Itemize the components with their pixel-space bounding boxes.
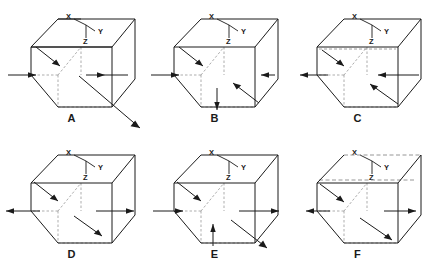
- axis-label-z: Z: [369, 173, 374, 182]
- axis-triad: X Y Z: [352, 148, 389, 182]
- axis-label-z: Z: [83, 173, 88, 182]
- left-face-arrow: [8, 72, 36, 77]
- box-wireframe: [31, 19, 135, 107]
- box-wireframe: [174, 19, 278, 107]
- axis-triad: X Y Z: [66, 148, 103, 182]
- left-face-arrow: [153, 208, 183, 213]
- top-face-arrow: [179, 47, 203, 66]
- left-face-arrow: [6, 208, 40, 213]
- axis-label-z: Z: [83, 37, 88, 46]
- axis-label-y: Y: [98, 27, 103, 36]
- right-face-arrow: [384, 208, 416, 213]
- box-panel-f: X Y Z: [286, 136, 429, 272]
- top-face-arrow: [177, 182, 201, 201]
- box-label-f: F: [286, 248, 429, 260]
- front-face-arrow: [360, 218, 392, 240]
- box-wireframe: [317, 19, 421, 107]
- top-face-arrow: [36, 47, 60, 66]
- box-wireframe: [31, 155, 135, 243]
- box-panel-e: X Y Z: [143, 136, 286, 272]
- right-face-arrow: [261, 72, 275, 77]
- box-wireframe: [174, 155, 278, 243]
- box-label-a: A: [0, 112, 143, 124]
- box-label-d: D: [0, 248, 143, 260]
- axis-label-z: Z: [226, 173, 231, 182]
- force-diagram-figure: X Y Z: [0, 0, 429, 272]
- front-face-arrow: [74, 216, 102, 236]
- axis-label-z: Z: [369, 37, 374, 46]
- front-face-arrow: [370, 84, 398, 104]
- axis-label-x: X: [66, 148, 71, 157]
- axis-label-y: Y: [384, 27, 389, 36]
- right-face-arrow: [239, 208, 279, 213]
- axis-label-z: Z: [226, 37, 231, 46]
- top-face-arrow: [322, 50, 344, 66]
- top-face-arrow: [320, 184, 344, 202]
- box-label-b: B: [143, 112, 286, 124]
- axis-label-x: X: [209, 148, 214, 157]
- left-face-arrow: [300, 72, 328, 77]
- box-panel-c: X Y Z: [286, 0, 429, 136]
- right-face-arrow: [96, 208, 134, 213]
- axis-triad: X Y Z: [209, 12, 246, 46]
- axis-label-y: Y: [241, 27, 246, 36]
- axis-triad: X Y Z: [209, 148, 246, 182]
- left-face-arrow: [151, 72, 179, 77]
- box-label-e: E: [143, 248, 286, 260]
- axis-triad: X Y Z: [66, 12, 103, 46]
- axis-label-x: X: [352, 148, 357, 157]
- right-face-arrow: [86, 72, 128, 77]
- front-face-arrow: [231, 220, 267, 248]
- box-panel-a: X Y Z: [0, 0, 143, 136]
- box-label-c: C: [286, 112, 429, 124]
- axis-label-y: Y: [384, 163, 389, 172]
- box-panel-d: X Y Z: [0, 136, 143, 272]
- axis-label-y: Y: [241, 163, 246, 172]
- axis-label-y: Y: [98, 163, 103, 172]
- top-face-arrow: [34, 182, 58, 201]
- box-wireframe: [317, 155, 421, 243]
- box-panel-b: X Y Z: [143, 0, 286, 136]
- axis-triad: X Y Z: [352, 12, 389, 46]
- axis-label-x: X: [66, 12, 71, 21]
- axis-label-x: X: [209, 12, 214, 21]
- axis-label-x: X: [352, 12, 357, 21]
